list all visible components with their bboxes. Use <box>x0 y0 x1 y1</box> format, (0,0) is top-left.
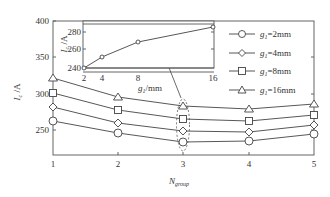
x-tick-2: 2 <box>116 159 121 169</box>
x-axis: 1 2 3 4 5 Ngroup <box>51 152 317 187</box>
svg-text:g1=16mm: g1=16mm <box>260 85 296 96</box>
y-tick-400: 400 <box>36 16 50 26</box>
x-tick-5: 5 <box>312 159 317 169</box>
legend-item-g1-4mm: g1=4mm <box>229 48 291 59</box>
svg-text:g1=4mm: g1=4mm <box>260 48 291 59</box>
x-tick-1: 1 <box>51 159 56 169</box>
inset-x-tick-4: 4 <box>100 73 105 83</box>
y-axis-label: Ic /A <box>12 83 23 101</box>
svg-text:g1=8mm: g1=8mm <box>260 66 291 77</box>
legend-item-g1-16mm: g1=16mm <box>229 85 296 96</box>
y-tick-350: 350 <box>36 52 50 62</box>
inset-y-axis-label: Ic /A <box>59 35 70 53</box>
y-tick-250: 250 <box>36 125 50 135</box>
inset-plot: 280 260 240 2 4 8 16 g1/mm Ic /A <box>59 21 218 94</box>
chart: 400 350 300 250 Ic /A 1 2 3 4 5 Ngroup <box>0 0 330 197</box>
inset-x-tick-2: 2 <box>82 73 87 83</box>
legend: g1=2mm g1=4mm g1=8mm g1=16mm <box>229 29 296 96</box>
svg-text:g1=2mm: g1=2mm <box>260 29 291 40</box>
x-axis-label: Ngroup <box>168 176 189 187</box>
inset-x-tick-8: 8 <box>136 73 141 83</box>
inset-y-tick-240: 240 <box>68 63 82 73</box>
inset-x-tick-16: 16 <box>209 73 219 83</box>
x-tick-4: 4 <box>247 159 252 169</box>
legend-item-g1-8mm: g1=8mm <box>229 66 291 77</box>
inset-y-tick-280: 280 <box>68 27 82 37</box>
x-tick-3: 3 <box>181 159 186 169</box>
y-tick-300: 300 <box>36 89 50 99</box>
inset-x-axis-label: g1/mm <box>138 83 162 94</box>
legend-item-g1-2mm: g1=2mm <box>229 29 291 40</box>
